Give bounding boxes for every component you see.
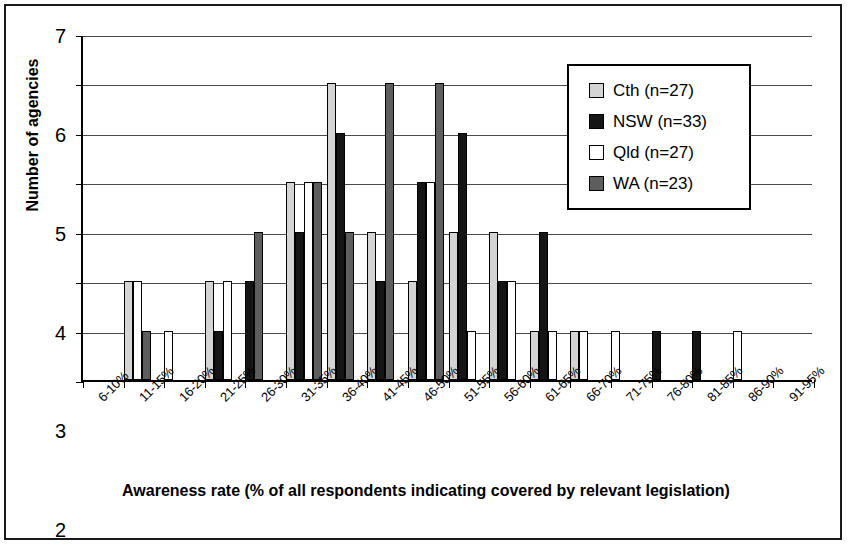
bar-group xyxy=(83,36,124,380)
legend-swatch-icon xyxy=(589,114,604,129)
y-axis-tick: 4 xyxy=(76,184,83,185)
bar xyxy=(367,232,376,380)
legend-swatch-icon xyxy=(589,83,604,98)
bar-group xyxy=(124,36,165,380)
bar-group xyxy=(327,36,368,380)
legend-item: NSW (n=33) xyxy=(569,106,749,137)
bar xyxy=(286,182,295,380)
bar-group xyxy=(367,36,408,380)
bar xyxy=(449,232,458,380)
bar xyxy=(458,133,467,380)
bar xyxy=(385,83,394,380)
bar-group xyxy=(286,36,327,380)
bar xyxy=(435,83,444,380)
y-axis-tick-label: 5 xyxy=(55,224,66,244)
bar xyxy=(327,83,336,380)
bar xyxy=(539,232,548,380)
x-axis-title: Awareness rate (% of all respondents ind… xyxy=(66,480,786,502)
legend-swatch-icon xyxy=(589,145,604,160)
y-axis-tick: 5 xyxy=(76,135,83,136)
legend-label: WA (n=23) xyxy=(613,175,693,192)
bar xyxy=(467,331,476,380)
chart-legend: Cth (n=27)NSW (n=33)Qld (n=27)WA (n=23) xyxy=(567,64,751,210)
legend-item: Qld (n=27) xyxy=(569,137,749,168)
bar xyxy=(223,281,232,380)
bar xyxy=(313,182,322,380)
y-axis-title: Number of agencies xyxy=(24,20,42,250)
bar xyxy=(376,281,385,380)
legend-item: Cth (n=27) xyxy=(569,75,749,106)
legend-swatch-icon xyxy=(589,176,604,191)
bar xyxy=(345,232,354,380)
bar xyxy=(498,281,507,380)
y-axis-tick-label: 2 xyxy=(55,520,66,540)
legend-label: Qld (n=27) xyxy=(613,144,694,161)
x-axis-tick xyxy=(83,380,84,388)
bar-group xyxy=(489,36,530,380)
bar-group xyxy=(449,36,490,380)
legend-item: WA (n=23) xyxy=(569,168,749,199)
bar-group xyxy=(530,36,571,380)
bar xyxy=(336,133,345,380)
y-axis-tick-label: 7 xyxy=(55,26,66,46)
y-axis-tick-label: 3 xyxy=(55,421,66,441)
bar-group xyxy=(245,36,286,380)
bar xyxy=(133,281,142,380)
bar xyxy=(142,331,151,380)
bar-group xyxy=(205,36,246,380)
bar xyxy=(426,182,435,380)
bar-group xyxy=(164,36,205,380)
bar xyxy=(124,281,133,380)
bar xyxy=(507,281,516,380)
chart-frame: Number of agencies 01234567 6-10%11-15%1… xyxy=(4,4,842,540)
bar xyxy=(489,232,498,380)
bar xyxy=(304,182,313,380)
bar-group xyxy=(773,36,814,380)
bar xyxy=(295,232,304,380)
y-axis-tick: 7 xyxy=(76,36,83,37)
bar xyxy=(417,182,426,380)
y-axis-tick: 2 xyxy=(76,283,83,284)
y-axis-tick-label: 6 xyxy=(55,125,66,145)
legend-label: NSW (n=33) xyxy=(613,113,707,130)
bar xyxy=(254,232,263,380)
bar xyxy=(548,331,557,380)
bar-group xyxy=(408,36,449,380)
legend-label: Cth (n=27) xyxy=(613,82,694,99)
y-axis-tick: 6 xyxy=(76,85,83,86)
y-axis-tick: 0 xyxy=(76,382,83,383)
y-axis-tick-label: 4 xyxy=(55,323,66,343)
y-axis-tick: 1 xyxy=(76,333,83,334)
y-axis-tick: 3 xyxy=(76,234,83,235)
